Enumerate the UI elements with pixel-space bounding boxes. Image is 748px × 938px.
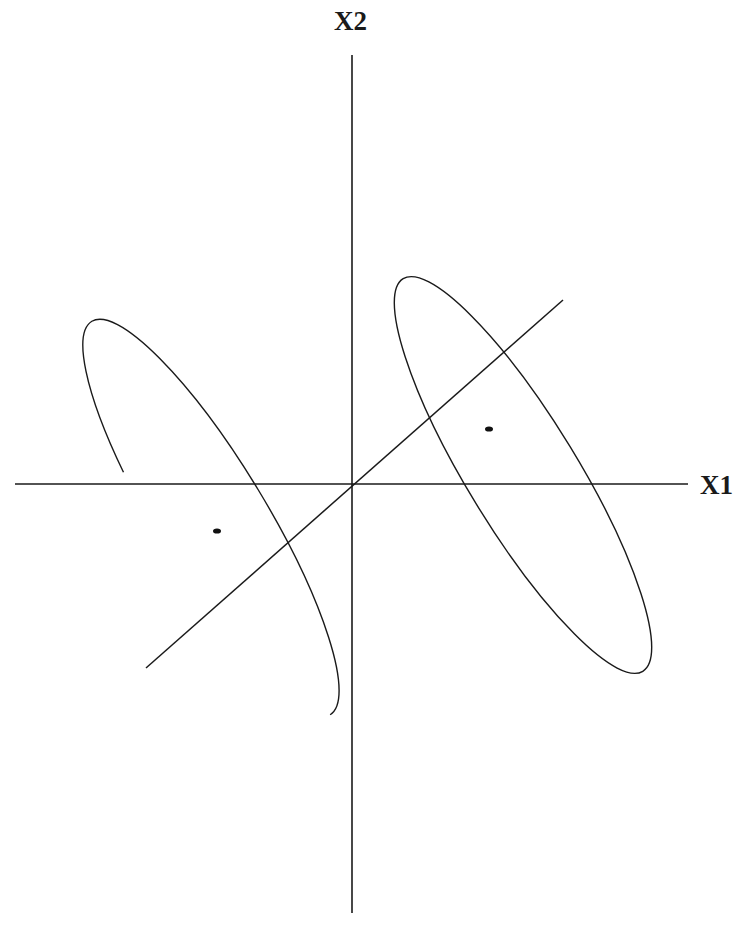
left-ellipse xyxy=(45,293,377,743)
left-mean-point xyxy=(213,528,221,533)
diagram-canvas xyxy=(0,0,748,938)
x1-axis-label: X1 xyxy=(700,472,733,499)
right-ellipse xyxy=(356,250,690,700)
x2-axis-label: X2 xyxy=(334,8,367,35)
right-mean-point xyxy=(485,426,493,431)
